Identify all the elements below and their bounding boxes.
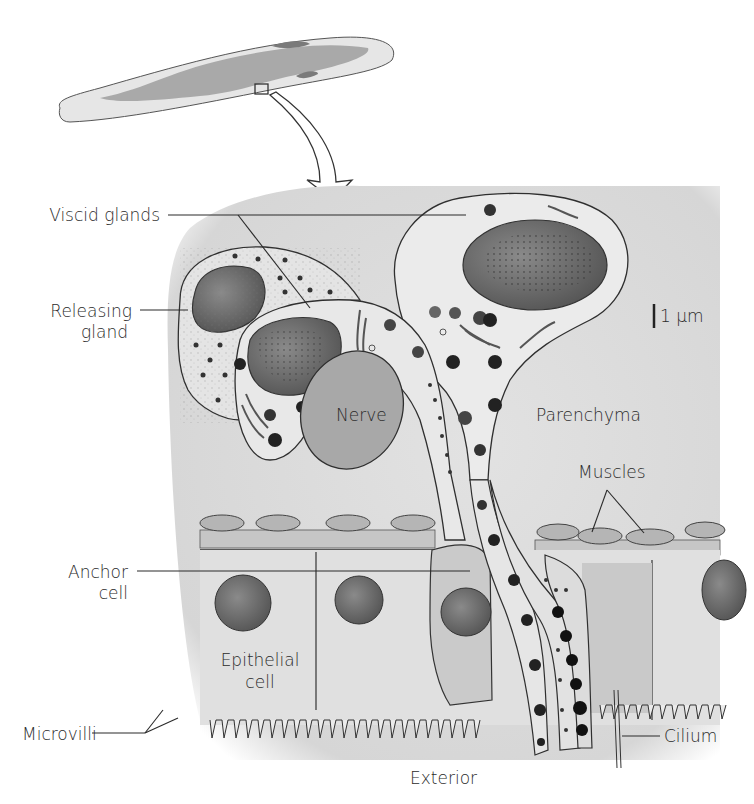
label-parenchyma: Parenchyma	[536, 405, 641, 425]
label-epithelial-cell-2: cell	[210, 672, 310, 692]
label-anchor-cell-1: Anchor	[0, 562, 128, 582]
magnify-arrow-icon	[270, 92, 352, 200]
adhesive-organ-diagram: Viscid glands Releasing gland 1 µm Nerve…	[0, 0, 754, 804]
label-releasing-gland-1: Releasing	[0, 301, 132, 321]
label-nerve: Nerve	[336, 405, 387, 425]
worm-overview	[59, 37, 393, 122]
label-muscles: Muscles	[578, 462, 646, 482]
anchor-cell	[430, 545, 492, 705]
label-exterior: Exterior	[410, 768, 477, 788]
nucleus	[441, 588, 491, 636]
diagram-illustration	[0, 0, 754, 804]
label-viscid-glands: Viscid glands	[0, 205, 160, 225]
label-cilium: Cilium	[664, 726, 717, 746]
nucleus	[215, 575, 271, 631]
label-microvilli: Microvilli	[22, 724, 97, 744]
label-scale-bar: 1 µm	[660, 306, 704, 326]
label-releasing-gland-2: gland	[0, 322, 128, 342]
label-epithelial-cell-1: Epithelial	[210, 650, 310, 670]
nucleus	[335, 576, 383, 624]
label-anchor-cell-2: cell	[0, 583, 128, 603]
